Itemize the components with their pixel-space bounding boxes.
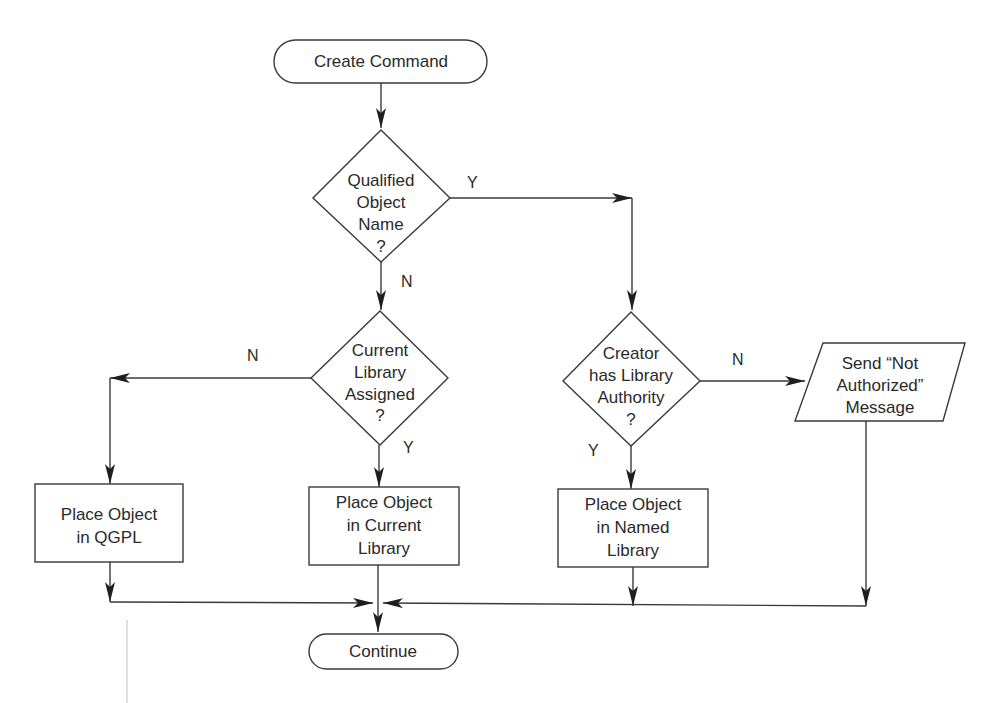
node-label-line: in QGPL: [76, 528, 141, 547]
node-label-line: Send “Not: [842, 354, 919, 373]
node-label-line: has Library: [589, 366, 674, 385]
node-label-line: Message: [846, 398, 915, 417]
edge-label-d2-yes: Y: [403, 439, 414, 456]
node-label-line: ?: [376, 237, 385, 256]
node-label-line: Library: [358, 539, 410, 558]
node-place-object-in-named-library[interactable]: Place Object in Named Library: [558, 489, 708, 567]
node-label-line: in Current: [347, 516, 422, 535]
node-label: Create Command: [314, 52, 448, 71]
node-label-line: Library: [607, 541, 659, 560]
node-place-object-in-current-library[interactable]: Place Object in Current Library: [309, 487, 459, 565]
node-label-line: in Named: [597, 518, 670, 537]
node-label-line: Place Object: [61, 505, 158, 524]
edge-right-to-merge: [383, 603, 866, 606]
edges: [110, 83, 866, 632]
node-label-line: Name: [358, 215, 403, 234]
node-label-line: ?: [626, 410, 635, 429]
node-label-line: Current: [352, 341, 409, 360]
node-qualified-object-name[interactable]: Qualified Object Name ?: [313, 130, 450, 262]
edge-label-d2-no: N: [247, 347, 259, 364]
node-label: Continue: [349, 642, 417, 661]
node-current-library-assigned[interactable]: Current Library Assigned ?: [311, 311, 448, 445]
node-label-line: Creator: [603, 344, 660, 363]
edge-label-d1-yes: Y: [467, 174, 478, 191]
node-label-line: ?: [375, 406, 384, 425]
node-create-command[interactable]: Create Command: [274, 40, 487, 83]
node-label-line: Place Object: [585, 495, 682, 514]
node-label-line: Object: [356, 193, 405, 212]
edge-qgpl-to-merge: [110, 602, 373, 603]
node-place-object-in-qgpl[interactable]: Place Object in QGPL: [35, 484, 183, 562]
node-label-line: Authorized”: [837, 376, 924, 395]
node-label-line: Assigned: [345, 385, 415, 404]
node-continue[interactable]: Continue: [309, 634, 458, 669]
node-label-line: Library: [354, 363, 406, 382]
edge-label-d3-yes: Y: [588, 442, 599, 459]
node-label-line: Place Object: [336, 493, 433, 512]
edge-label-d1-no: N: [401, 273, 413, 290]
node-send-not-authorized-message[interactable]: Send “Not Authorized” Message: [795, 343, 965, 421]
node-label-line: Qualified: [347, 171, 414, 190]
node-label-line: Authority: [597, 388, 665, 407]
flowchart-canvas: Create Command Qualified Object Name ? C…: [0, 0, 995, 703]
node-creator-has-library-authority[interactable]: Creator has Library Authority ?: [563, 312, 700, 446]
edge-label-d3-no: N: [732, 351, 744, 368]
